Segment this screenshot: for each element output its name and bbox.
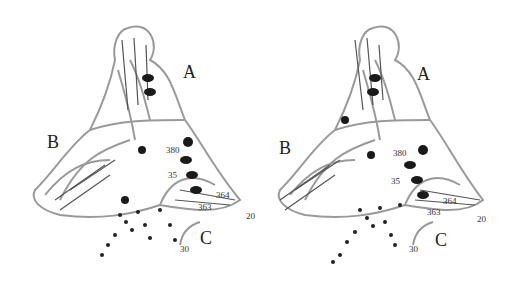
domain-label-b: B bbox=[279, 138, 291, 159]
domain-label-c: C bbox=[200, 228, 212, 249]
residue-label-380: 380 bbox=[393, 148, 407, 158]
residue-label-35: 35 bbox=[168, 170, 177, 180]
stereo-right-panel: A B C 380 35 364 363 20 30 bbox=[255, 0, 510, 282]
ribbon-structure-right bbox=[255, 0, 510, 282]
residue-label-364: 364 bbox=[443, 196, 457, 206]
residue-label-20: 20 bbox=[477, 214, 486, 224]
residue-label-30: 30 bbox=[180, 244, 189, 254]
residue-label-380: 380 bbox=[166, 145, 180, 155]
residue-label-364: 364 bbox=[216, 190, 230, 200]
ribbon-structure-left bbox=[0, 0, 255, 282]
domain-label-a: A bbox=[417, 64, 430, 85]
residue-label-35: 35 bbox=[391, 176, 400, 186]
domain-label-b: B bbox=[47, 132, 59, 153]
domain-label-a: A bbox=[183, 62, 196, 83]
residue-label-30: 30 bbox=[409, 244, 418, 254]
stereo-left-panel: A B C 380 35 364 363 20 30 bbox=[0, 0, 255, 282]
residue-label-20: 20 bbox=[246, 211, 255, 221]
domain-label-c: C bbox=[435, 230, 447, 251]
ligand-cluster-right bbox=[331, 203, 402, 264]
residue-label-363: 363 bbox=[427, 207, 441, 217]
residue-label-363: 363 bbox=[198, 202, 212, 212]
